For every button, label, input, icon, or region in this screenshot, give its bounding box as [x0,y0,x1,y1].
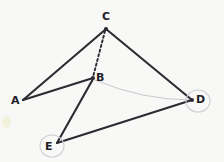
figure-canvas [0,0,224,162]
vertex-label-c: C [102,11,110,22]
vertex-label-e: E [45,141,53,152]
vertex-label-b: B [96,72,104,83]
vertex-dot-d [190,98,194,102]
edge-c-d [106,29,192,100]
vertex-dot-b [91,76,95,80]
edge-b-d-faint-curve [95,80,192,100]
vertex-label-d: D [196,94,205,105]
vertex-label-a: A [11,95,20,106]
geometry-figure: A B C D E [0,0,224,162]
edge-a-c [23,29,106,100]
vertex-dot-c [104,27,108,31]
